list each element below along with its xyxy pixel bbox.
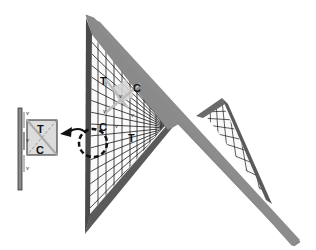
callout-arrow (70, 129, 86, 133)
inset-bar (18, 108, 22, 190)
label-compression-right: C (133, 82, 141, 94)
diagram-canvas: T C C T v v v v T C v v v (0, 0, 316, 250)
callout-arrowhead (60, 127, 72, 137)
inset-detail: T C v v v (18, 108, 57, 190)
label-tension-top: T (100, 75, 107, 87)
inset-label-compression: C (36, 144, 44, 156)
inset-label-shear-top: v (26, 109, 30, 117)
label-tension-bottom: T (128, 132, 135, 144)
inset-label-tension: T (37, 123, 44, 135)
inset-label-shear-bottom: v (26, 164, 30, 172)
